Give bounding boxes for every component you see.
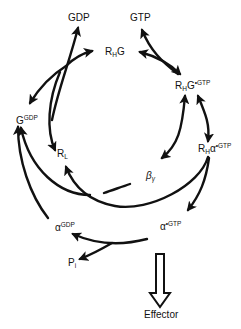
label-pi: Pi	[68, 257, 76, 269]
g-protein-cycle-diagram: GDP GTP RHG RHG•GTP GGDP RL RHα•GTP βγ α…	[0, 0, 241, 329]
betagamma-join	[104, 184, 130, 193]
label-alpha-gtp: α•GTP	[160, 220, 181, 232]
arrow-to-alphagdp	[73, 234, 147, 243]
label-rhg-gtp: RHG•GTP	[175, 79, 210, 92]
arrow-rhggtp-rhalphagtp	[198, 96, 209, 141]
hollow-arrow-to-effector	[150, 254, 170, 307]
label-rhg: RHG	[105, 46, 125, 58]
arrows	[18, 28, 209, 307]
label-g-gdp: GGDP	[16, 114, 38, 126]
label-rh-alpha-gtp: RHα•GTP	[198, 142, 231, 155]
label-gtp: GTP	[130, 12, 151, 23]
arrow-rhggtp-to-betagamma	[162, 96, 185, 158]
label-effector: Effector	[144, 309, 179, 320]
arrow-rhalphagtp-to-rl	[66, 157, 208, 207]
arrow-merge-to-ggdp	[21, 128, 90, 195]
arrow-to-pi	[80, 243, 112, 259]
arrow-rhalphagtp-to-alphagtp	[188, 158, 209, 210]
label-gdp: GDP	[68, 12, 90, 23]
label-beta-gamma: βγ	[145, 170, 156, 183]
label-alpha-gdp: αGDP	[55, 221, 75, 233]
label-rl: RL	[57, 148, 68, 160]
